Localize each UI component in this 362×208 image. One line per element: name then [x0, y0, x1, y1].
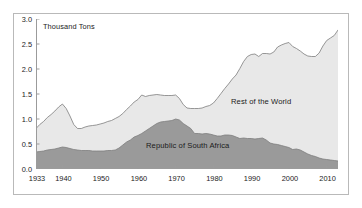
- y-tick-label: 0.5: [22, 140, 32, 149]
- y-tick-label: 2.0: [22, 65, 32, 74]
- y-tick-label: 1.5: [22, 90, 32, 99]
- x-tick-label: 2000: [282, 174, 298, 183]
- chart-figure: 3.0 2.5 2.0 1.5 1.0 0.5 0.0 1933 1940 19…: [0, 0, 362, 208]
- x-tick-label: 1990: [244, 174, 260, 183]
- plot-area: Thousand Tons Rest of the World Republic…: [36, 19, 338, 169]
- x-axis-tick-labels: 1933 1940 1950 1960 1970 1980 1990 2000 …: [0, 174, 362, 188]
- x-tick-label: 1980: [206, 174, 222, 183]
- x-tick-label: 1933: [29, 174, 45, 183]
- y-tick-label: 3.0: [22, 15, 32, 24]
- x-tick-label: 1950: [93, 174, 109, 183]
- series-label-rest-of-the-world: Rest of the World: [231, 97, 291, 106]
- axis-unit-label: Thousand Tons: [43, 22, 95, 31]
- x-tick-label: 1960: [131, 174, 147, 183]
- series-label-republic-of-south-africa: Republic of South Africa: [146, 141, 229, 150]
- x-tick-label: 1970: [168, 174, 184, 183]
- y-tick-label: 2.5: [22, 40, 32, 49]
- x-tick-label: 2010: [319, 174, 335, 183]
- y-tick-label: 1.0: [22, 115, 32, 124]
- x-tick-label: 1940: [55, 174, 71, 183]
- y-tick-label: 0.0: [22, 165, 32, 174]
